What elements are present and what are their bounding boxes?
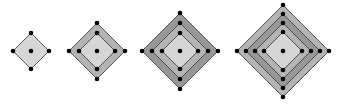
vertex-dot — [178, 11, 183, 16]
vertex-dot — [281, 95, 286, 100]
vertex-dot — [235, 49, 240, 54]
vertex-dot — [95, 21, 100, 26]
vertex-dot — [29, 67, 34, 72]
vertex-dot — [309, 49, 314, 54]
diamond-figure-4 — [235, 3, 332, 100]
vertex-dot — [95, 67, 100, 72]
vertex-dot — [281, 68, 286, 73]
vertex-dot — [29, 49, 34, 54]
vertex-dot — [178, 31, 183, 36]
nested-diamonds-diagram — [0, 0, 346, 110]
vertex-dot — [281, 49, 286, 54]
vertex-dot — [206, 49, 211, 54]
diamond-figure-2 — [67, 21, 128, 82]
vertex-dot — [262, 49, 267, 54]
vertex-dot — [281, 77, 286, 82]
vertex-dot — [95, 77, 100, 82]
vertex-dot — [178, 49, 183, 54]
vertex-dot — [178, 87, 183, 92]
vertex-dot — [29, 31, 34, 36]
vertex-dot — [196, 49, 201, 54]
vertex-dot — [113, 49, 118, 54]
vertex-dot — [244, 49, 249, 54]
vertex-dot — [11, 49, 16, 54]
vertex-dot — [216, 49, 221, 54]
vertex-dot — [47, 49, 52, 54]
diamond-figure-3 — [140, 11, 221, 92]
vertex-dot — [178, 77, 183, 82]
vertex-dot — [160, 49, 165, 54]
vertex-dot — [300, 49, 305, 54]
vertex-dot — [281, 3, 286, 8]
vertex-dot — [178, 21, 183, 26]
vertex-dot — [253, 49, 258, 54]
vertex-dot — [123, 49, 128, 54]
vertex-dot — [95, 49, 100, 54]
vertex-dot — [281, 21, 286, 26]
vertex-dot — [67, 49, 72, 54]
vertex-dot — [95, 31, 100, 36]
vertex-dot — [318, 49, 323, 54]
vertex-dot — [327, 49, 332, 54]
vertex-dot — [178, 67, 183, 72]
diamond-figure-1 — [11, 31, 52, 72]
vertex-dot — [281, 12, 286, 17]
vertex-dot — [77, 49, 82, 54]
vertex-dot — [140, 49, 145, 54]
vertex-dot — [281, 30, 286, 35]
vertex-dot — [281, 86, 286, 91]
vertex-dot — [150, 49, 155, 54]
